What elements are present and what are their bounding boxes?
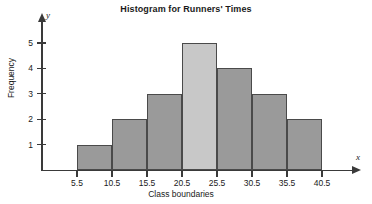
y-axis-tick	[37, 42, 46, 43]
x-axis-tick-label: 35.5	[270, 178, 304, 188]
x-axis-variable-letter: x	[356, 152, 360, 162]
x-axis-tick	[321, 170, 322, 177]
x-axis-tick-label: 10.5	[95, 178, 129, 188]
y-axis-tick-label: 2	[17, 114, 33, 124]
y-axis-title: Frequency	[6, 38, 16, 118]
y-axis-tick-label: 1	[17, 140, 33, 150]
x-axis-tick	[216, 170, 217, 177]
x-axis-tick-label: 25.5	[200, 178, 234, 188]
x-axis-tick	[76, 170, 77, 177]
x-axis-arrow-icon	[352, 166, 361, 174]
y-axis-line	[41, 22, 43, 171]
y-axis-tick	[37, 68, 46, 69]
x-axis-title: Class boundaries	[41, 189, 321, 199]
x-axis-tick	[111, 170, 112, 177]
histogram-bar	[147, 94, 182, 170]
histogram-chart: Histogram for Runners' Times y x Frequen…	[0, 0, 372, 204]
y-axis-arrow-icon	[38, 13, 46, 22]
histogram-bar	[112, 119, 147, 170]
x-axis-tick	[146, 170, 147, 177]
x-axis-tick-label: 40.5	[305, 178, 339, 188]
chart-title: Histogram for Runners' Times	[0, 4, 372, 14]
x-axis-tick-label: 5.5	[60, 178, 94, 188]
y-axis-variable-letter: y	[46, 10, 50, 20]
y-axis-tick	[37, 93, 46, 94]
histogram-bar	[77, 145, 112, 170]
histogram-bar	[182, 43, 217, 170]
x-axis-tick-label: 20.5	[165, 178, 199, 188]
x-axis-tick	[286, 170, 287, 177]
x-axis-tick	[181, 170, 182, 177]
y-axis-tick-label: 3	[17, 89, 33, 99]
y-axis-tick	[37, 119, 46, 120]
y-axis-tick	[37, 144, 46, 145]
histogram-bar	[217, 68, 252, 170]
y-axis-tick-label: 4	[17, 63, 33, 73]
y-axis-tick-label: 5	[17, 38, 33, 48]
histogram-bar	[252, 94, 287, 170]
x-axis-tick	[251, 170, 252, 177]
x-axis-tick-label: 15.5	[130, 178, 164, 188]
x-axis-tick-label: 30.5	[235, 178, 269, 188]
histogram-bar	[287, 119, 322, 170]
